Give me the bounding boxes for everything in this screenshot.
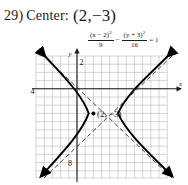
center-point-label: (2, −3) — [97, 109, 122, 119]
problem-statement: 29)Center:(2,−3) — [4, 6, 116, 26]
hyperbola-right-branch — [118, 54, 170, 174]
first-numerator: (x − 2)2 — [88, 30, 114, 40]
second-numerator-exponent: 2 — [143, 30, 146, 35]
x-axis-label: x — [178, 80, 183, 88]
hyperbola-left-branch — [43, 54, 89, 174]
second-numerator-text: (y + 3) — [124, 31, 143, 39]
hyperbola-graph: (2, −3) 2 4 8 x y — [30, 42, 186, 184]
y-tick-label-neg8: 8 — [68, 159, 72, 168]
first-numerator-text: (x − 2) — [90, 31, 109, 39]
center-value: (2,−3) — [73, 6, 116, 25]
first-numerator-exponent: 2 — [109, 30, 112, 35]
center-point-marker — [91, 111, 95, 115]
problem-number: 29) — [4, 8, 23, 23]
second-numerator: (y + 3)2 — [122, 30, 148, 40]
worksheet-page: 29)Center:(2,−3) (x − 2)2 9 − (y + 3)2 1… — [0, 0, 188, 185]
problem-label: Center: — [26, 8, 69, 23]
graph-canvas: (2, −3) 2 4 8 x y — [30, 42, 186, 184]
y-tick-label-2: 2 — [80, 58, 84, 67]
x-tick-label-neg4: 4 — [31, 87, 35, 96]
